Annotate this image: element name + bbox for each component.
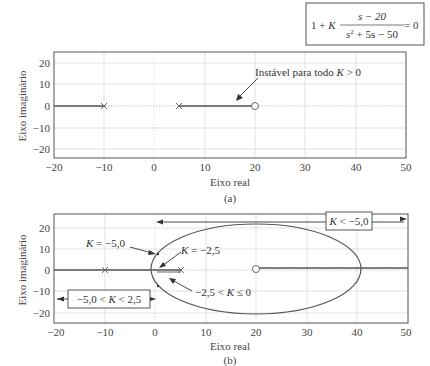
svg-text:50: 50 [401,326,413,338]
svg-text:−5,0 < K < 2,5: −5,0 < K < 2,5 [77,293,142,305]
zero-icon [252,103,259,110]
svg-text:K = −5,0: K = −5,0 [85,237,126,249]
x-label-b: Eixo real [210,340,250,352]
x-ticks-b: −20−100 102030 4050 [47,326,412,338]
svg-text:0: 0 [45,100,51,112]
caption-a: (a) [224,192,237,205]
svg-text:0: 0 [45,264,51,276]
plot-a: Instável para todo K > 0 20100 −10−20 −2… [16,52,412,205]
y-ticks-b: 20100 −10−20 [33,222,51,319]
svg-text:20: 20 [39,57,51,69]
svg-text:10: 10 [201,326,213,338]
svg-text:s2 + 5s − 50: s2 + 5s − 50 [346,28,398,40]
svg-text:−10: −10 [95,161,113,173]
svg-text:−10: −10 [96,326,114,338]
svg-text:−20: −20 [33,143,51,155]
svg-text:0: 0 [152,326,158,338]
annotation-range-minus2-5-to-0: −2,5 < K ≤ 0 [169,278,252,298]
annotation-unstable: Instável para todo K > 0 [255,66,362,78]
svg-text:= 0: = 0 [404,19,419,31]
svg-text:K = −2,5: K = −2,5 [180,244,221,256]
svg-text:−10: −10 [33,285,51,297]
y-label-a: Eixo imaginário [16,70,28,142]
annotation-k-minus2-5: K = −2,5 [159,244,221,268]
svg-text:−20: −20 [45,161,63,173]
svg-text:10: 10 [39,78,51,90]
svg-text:30: 30 [302,326,314,338]
svg-text:1 + K: 1 + K [311,19,336,31]
zero-icon [253,266,260,273]
svg-text:10: 10 [200,161,212,173]
svg-text:K < −5,0: K < −5,0 [328,215,369,227]
svg-text:20: 20 [39,222,51,234]
y-ticks-a: 20100 −10−20 [33,57,51,155]
x-ticks-a: −20−100 102030 4050 [45,161,412,173]
annotation-k-minus5: K = −5,0 [85,237,156,255]
svg-text:−20: −20 [47,326,65,338]
characteristic-equation: 1 + K s − 20 s2 + 5s − 50 = 0 [306,3,424,45]
svg-text:10: 10 [39,243,51,255]
caption-b: (b) [224,354,237,366]
svg-text:−20: −20 [33,307,51,319]
plot-b: K < −5,0 K = −5,0 K = −2,5 −2,5 < K ≤ 0 … [16,212,412,366]
svg-text:20: 20 [250,161,262,173]
svg-text:−2,5 < K ≤ 0: −2,5 < K ≤ 0 [195,286,252,298]
svg-text:40: 40 [352,326,364,338]
svg-text:20: 20 [251,326,263,338]
svg-text:s − 20: s − 20 [358,10,387,22]
y-label-b: Eixo imaginário [16,234,28,306]
annotation-range-minus5-to-2-5: −5,0 < K < 2,5 [57,290,156,308]
x-label-a: Eixo real [210,176,250,188]
svg-text:0: 0 [151,161,157,173]
annotation-k-less-minus5: K < −5,0 [156,212,407,230]
svg-text:−10: −10 [33,122,51,134]
svg-text:30: 30 [300,161,312,173]
svg-text:40: 40 [351,161,363,173]
svg-text:50: 50 [401,161,413,173]
root-locus-figure: 1 + K s − 20 s2 + 5s − 50 = 0 [0,0,430,366]
